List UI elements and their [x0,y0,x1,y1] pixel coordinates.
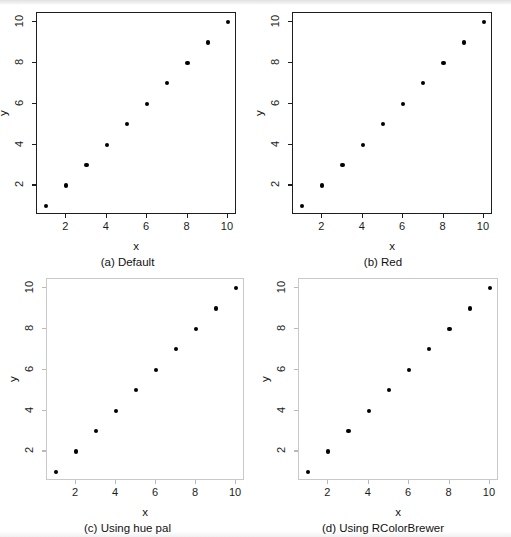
x-tick-c [75,480,76,484]
x-tick-a [187,214,188,218]
panel-caption-d: (d) Using RColorBrewer [255,522,511,535]
y-tick-label: 8 [24,318,36,338]
y-tick-c [42,369,46,370]
data-point [468,306,472,310]
y-tick-b [288,184,292,185]
x-tick-label: 10 [477,221,489,232]
x-tick-a [106,214,107,218]
y-tick-b [288,62,292,63]
y-tick-a [32,21,36,22]
y-tick-a [32,184,36,185]
y-tick-label: 6 [14,93,26,113]
x-tick-b [362,214,363,218]
data-point [114,409,118,413]
data-point [125,122,129,126]
x-tick-label: 8 [439,221,445,232]
x-tick-d [449,480,450,484]
data-point [320,183,324,187]
data-point [54,470,58,474]
x-axis-title: x [142,506,148,518]
y-tick-a [32,62,36,63]
data-point [407,368,411,372]
y-tick-d [294,369,298,370]
y-tick-d [294,450,298,451]
data-points-c [47,279,243,479]
data-point [214,306,218,310]
data-point [421,81,425,85]
x-tick-b [402,214,403,218]
data-point [401,102,405,106]
x-tick-label: 10 [229,487,241,498]
y-tick-a [32,103,36,104]
y-tick-label: 4 [276,400,288,420]
panel-b: 246810246810xy(b) Red [255,0,511,268]
data-point [427,347,431,351]
y-tick-label: 2 [270,174,282,194]
x-tick-label: 6 [399,221,405,232]
y-tick-label: 8 [276,318,288,338]
y-tick-b [288,144,292,145]
data-point [441,61,445,65]
y-tick-c [42,287,46,288]
x-tick-c [115,480,116,484]
x-tick-label: 4 [112,487,118,498]
panel-caption-c: (c) Using hue pal [0,522,255,535]
x-tick-a [227,214,228,218]
x-tick-label: 6 [152,487,158,498]
x-tick-c [155,480,156,484]
x-tick-label: 2 [72,487,78,498]
x-tick-label: 6 [405,487,411,498]
figure-grid: 246810246810xy(a) Default246810246810xy(… [0,0,511,537]
data-point [447,327,451,331]
data-points-a [37,13,235,213]
y-axis-title: y [7,372,19,386]
data-point [326,449,330,453]
x-tick-b [483,214,484,218]
data-point [306,470,310,474]
x-tick-d [489,480,490,484]
data-point [94,429,98,433]
y-tick-label: 10 [270,11,282,31]
y-tick-label: 2 [276,440,288,460]
y-tick-label: 6 [24,359,36,379]
plot-area-b [292,12,492,214]
data-point [145,102,149,106]
plot-area-d [298,278,498,480]
x-tick-label: 4 [103,221,109,232]
x-tick-label: 10 [221,221,233,232]
data-point [387,388,391,392]
y-tick-b [288,21,292,22]
x-tick-d [408,480,409,484]
data-point [340,163,344,167]
data-points-d [299,279,497,479]
x-tick-label: 2 [324,487,330,498]
y-tick-label: 6 [276,359,288,379]
x-tick-c [195,480,196,484]
y-tick-label: 2 [14,174,26,194]
data-point [185,61,189,65]
y-tick-b [288,103,292,104]
y-tick-label: 10 [14,11,26,31]
data-point [367,409,371,413]
y-tick-c [42,410,46,411]
y-tick-label: 4 [24,400,36,420]
y-tick-d [294,287,298,288]
y-tick-label: 4 [14,134,26,154]
data-points-b [293,13,491,213]
x-tick-d [368,480,369,484]
data-point [206,40,210,44]
y-tick-label: 10 [276,277,288,297]
data-point [482,20,486,24]
x-tick-b [321,214,322,218]
x-tick-label: 8 [192,487,198,498]
data-point [194,327,198,331]
panel-a: 246810246810xy(a) Default [0,0,255,268]
x-tick-label: 4 [359,221,365,232]
x-tick-label: 8 [183,221,189,232]
y-tick-label: 6 [270,93,282,113]
y-tick-label: 8 [14,52,26,72]
data-point [462,40,466,44]
x-tick-a [146,214,147,218]
data-point [346,429,350,433]
x-axis-title: x [133,240,139,252]
